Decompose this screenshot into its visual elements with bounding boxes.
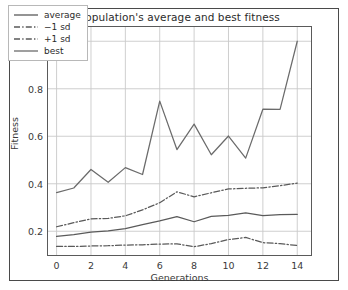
- legend-item[interactable]: average: [13, 9, 81, 21]
- legend-label: +1 sd: [44, 34, 71, 44]
- legend-item[interactable]: −1 sd: [13, 21, 81, 33]
- x-tick-label: 14: [291, 260, 303, 271]
- y-tick-label: 0.4: [9, 178, 43, 189]
- x-tick-label: 4: [122, 260, 128, 271]
- series-line-average: [57, 213, 298, 237]
- legend-swatch-solid-icon: [13, 46, 39, 56]
- series-line--1-sd: [57, 183, 298, 227]
- figure-canvas: Population's average and best fitness Fi…: [0, 0, 348, 290]
- plot-lines: [48, 27, 311, 255]
- legend-label: average: [44, 10, 81, 20]
- series-line--1-sd: [57, 237, 298, 246]
- legend-swatch-dashdot-icon: [13, 34, 39, 44]
- x-tick-label: 10: [222, 260, 234, 271]
- chart-legend: average−1 sd+1 sdbest: [8, 5, 88, 61]
- legend-item[interactable]: +1 sd: [13, 33, 81, 45]
- series-line-best: [57, 41, 298, 192]
- x-tick-label: 8: [191, 260, 197, 271]
- legend-label: −1 sd: [44, 22, 71, 32]
- x-tick-label: 6: [157, 260, 163, 271]
- x-tick-label: 0: [54, 260, 60, 271]
- x-axis-tick-labels: 02468101214: [47, 260, 312, 274]
- x-tick-label: 2: [88, 260, 94, 271]
- x-tick-label: 12: [257, 260, 269, 271]
- y-tick-label: 0.2: [9, 226, 43, 237]
- legend-swatch-solid-icon: [13, 10, 39, 20]
- y-tick-label: 0.6: [9, 131, 43, 142]
- legend-swatch-dashdot-icon: [13, 22, 39, 32]
- legend-label: best: [44, 46, 63, 56]
- legend-item[interactable]: best: [13, 45, 81, 57]
- y-tick-label: 0.8: [9, 83, 43, 94]
